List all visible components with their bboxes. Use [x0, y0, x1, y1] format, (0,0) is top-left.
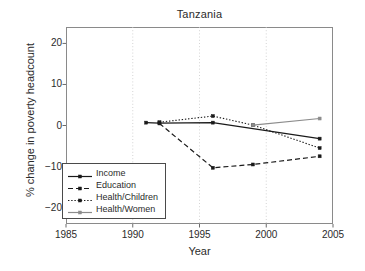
- y-axis-label: % change in poverty headcount: [24, 5, 36, 235]
- legend-item-label: Income: [93, 168, 126, 179]
- legend-line-sample-icon: [67, 168, 93, 179]
- legend-item-education[interactable]: Education: [67, 179, 161, 191]
- legend-item-income[interactable]: Income: [67, 167, 161, 179]
- x-axis-tick-labels: 19851990199520002005: [0, 229, 365, 245]
- legend-line-sample-icon: [67, 180, 93, 191]
- x-tick-label: 2005: [310, 229, 356, 240]
- x-axis-label: Year: [66, 245, 333, 257]
- x-tick-label: 1995: [177, 229, 223, 240]
- legend-item-label: Health/Women: [93, 204, 155, 215]
- x-tick-label: 1990: [110, 229, 156, 240]
- chart-legend: IncomeEducationHealth/ChildrenHealth/Wom…: [62, 163, 166, 219]
- legend-line-sample-icon: [67, 204, 93, 215]
- legend-item-label: Education: [93, 180, 136, 191]
- x-tick-label: 1985: [43, 229, 89, 240]
- legend-line-sample-icon: [67, 192, 93, 203]
- legend-item-health-children[interactable]: Health/Children: [67, 191, 161, 203]
- chart-figure: Tanzania 20100−10−20 1985199019952000200…: [0, 0, 365, 271]
- legend-item-health-women[interactable]: Health/Women: [67, 203, 161, 215]
- x-tick-label: 2000: [243, 229, 289, 240]
- legend-item-label: Health/Children: [93, 192, 158, 203]
